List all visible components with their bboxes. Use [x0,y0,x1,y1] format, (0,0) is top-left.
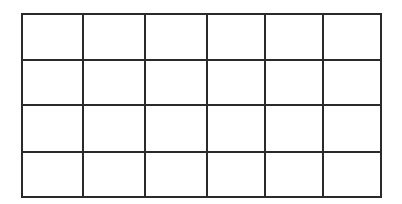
grid-cell [207,14,265,60]
grid-cell [83,14,145,60]
grid-diagram [0,0,402,204]
grid-cell [323,60,381,105]
grid-cell [145,105,207,152]
grid-cell [22,60,83,105]
grid-cell [207,152,265,197]
grid-cell [145,152,207,197]
grid-cell [22,152,83,197]
grid-cell [207,60,265,105]
grid-cell [323,105,381,152]
grid-cell [265,152,323,197]
grid-cell [83,105,145,152]
grid-cell [207,105,265,152]
grid-cell [323,14,381,60]
grid-cell [22,14,83,60]
grid-cell [145,60,207,105]
grid-cell [145,14,207,60]
grid-cell [22,105,83,152]
grid-cell [265,60,323,105]
grid-cell [265,14,323,60]
grid-cell [83,152,145,197]
grid-cell [265,105,323,152]
grid-cell [323,152,381,197]
grid-cell [83,60,145,105]
